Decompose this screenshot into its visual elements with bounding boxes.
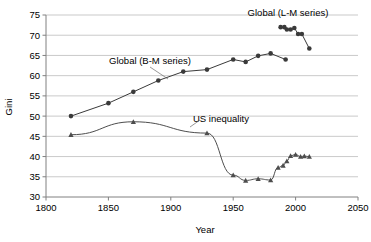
y-tick-label-70: 70 [29, 30, 40, 41]
data-point [243, 60, 248, 65]
series-line-3 [71, 122, 309, 181]
series-annotation-2: Global (B-M series) [109, 55, 191, 66]
data-point [131, 90, 136, 95]
y-tick-label-55: 55 [29, 90, 40, 101]
data-point [156, 78, 161, 83]
y-tick-label-40: 40 [29, 151, 40, 162]
data-point [256, 54, 261, 59]
series-3 [68, 119, 312, 182]
y-tick-label-30: 30 [29, 191, 40, 202]
x-tick-label-2050: 2050 [347, 202, 368, 213]
series-2 [278, 25, 311, 51]
y-tick-label-45: 45 [29, 131, 40, 142]
y-tick-labels-group: 30354045505560657075 [29, 9, 40, 202]
data-point [69, 114, 74, 119]
series-annotation-1: Global (L-M series) [248, 7, 329, 18]
y-tick-label-75: 75 [29, 9, 40, 20]
data-point [231, 57, 236, 62]
x-tick-label-1900: 1900 [160, 202, 181, 213]
x-tick-label-2000: 2000 [285, 202, 306, 213]
x-tick-label-1800: 1800 [35, 202, 56, 213]
chart-plot-area: 30354045505560657075 1800185019001950200… [0, 0, 371, 242]
series-annotations-group: Global (L-M series)Global (B-M series)US… [109, 7, 328, 127]
data-series-group [68, 25, 312, 183]
data-point [307, 46, 312, 51]
data-point [106, 101, 111, 106]
x-tick-labels-group: 180018501900195020002050 [35, 202, 368, 213]
y-tick-label-35: 35 [29, 171, 40, 182]
axes-group [43, 15, 359, 201]
x-tick-label-1850: 1850 [98, 202, 119, 213]
data-point [300, 32, 305, 37]
data-point [205, 67, 210, 72]
gridlines-group [46, 15, 358, 177]
data-point [181, 69, 186, 74]
leader-line-bm [150, 67, 168, 79]
data-point [268, 51, 273, 56]
data-point [283, 57, 288, 62]
y-tick-label-50: 50 [29, 111, 40, 122]
y-axis-title: Gini [3, 99, 14, 116]
x-tick-label-1950: 1950 [223, 202, 244, 213]
gini-inequality-chart: 30354045505560657075 1800185019001950200… [0, 0, 371, 242]
y-tick-label-60: 60 [29, 70, 40, 81]
series-annotation-3: US inequality [193, 113, 249, 124]
x-axis-title: Year [195, 224, 214, 235]
data-point [292, 26, 297, 31]
y-tick-label-65: 65 [29, 50, 40, 61]
